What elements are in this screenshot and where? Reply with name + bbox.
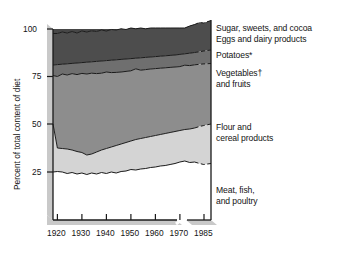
x-tick-label-1970: 1970 [170,228,189,238]
y-axis-label: Percent of total content of diet [12,79,22,190]
series-label-vegetables-fruits-line2: and fruits [216,79,250,89]
x-tick-label-1930: 1930 [72,228,91,238]
x-tick-label-1920: 1920 [47,228,66,238]
x-tick-label-1985: 1985 [194,228,213,238]
series-label-meat-fish-poultry-line1: Meat, fish, [216,185,255,195]
series-label-flour-cereal-line2: cereal products [216,133,273,143]
y-tick-label-75: 75 [32,71,41,81]
series-label-potatoes: Potatoes* [216,50,252,60]
x-tick-label-1960: 1960 [145,228,164,238]
y-tick-label-50: 50 [32,119,41,129]
y-axis-shadow [47,24,53,220]
series-label-flour-cereal-line1: Flour and [216,122,251,132]
series-label-meat-fish-poultry-line2: and poultry [216,196,257,206]
figure-container: Percent of total content of diet 100 75 … [0,0,341,258]
x-tick-label-1950: 1950 [121,228,140,238]
series-label-vegetables-fruits-line1: Vegetables† [216,68,262,78]
y-tick-label-25: 25 [32,167,41,177]
x-tick-label-1940: 1940 [96,228,115,238]
x-axis-shadow-right [186,220,217,225]
series-label-sugar-sweets-cocoa: Sugar, sweets, and cocoa [216,23,312,33]
y-tick-label-100: 100 [23,24,37,34]
series-label-eggs-dairy: Eggs and dairy products [216,34,306,44]
